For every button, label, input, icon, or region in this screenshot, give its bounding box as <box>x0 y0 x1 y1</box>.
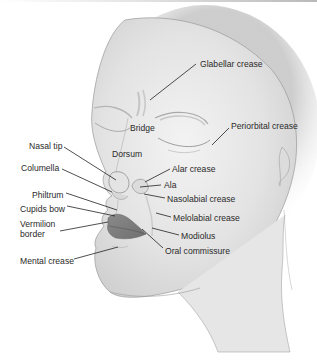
leader-ala <box>140 185 161 187</box>
label-melolabial-crease: Melolabial crease <box>173 213 240 223</box>
label-bridge: Bridge <box>130 123 155 133</box>
leader-mental-crease <box>74 247 118 259</box>
label-ala: Ala <box>164 180 176 190</box>
label-nasolabial-crease: Nasolabial crease <box>167 194 235 204</box>
label-columella: Columella <box>21 163 59 173</box>
leader-nasolabial-crease <box>144 194 165 198</box>
leader-melolabial-crease <box>156 213 171 217</box>
label-modiolus: Modiolus <box>181 231 215 241</box>
label-cupids-bow: Cupids bow <box>20 204 65 214</box>
label-glabellar-crease: Glabellar crease <box>200 59 263 69</box>
label-dorsum: Dorsum <box>112 149 142 159</box>
label-oral-commissure: Oral commissure <box>165 246 230 256</box>
leader-oral-commissure <box>142 229 163 248</box>
leader-glabellar-crease <box>150 64 196 100</box>
label-philtrum: Philtrum <box>32 190 64 200</box>
leader-modiolus <box>152 228 179 235</box>
leader-lines <box>0 0 317 361</box>
leader-vermilion-border <box>60 222 108 231</box>
leader-nasal-tip <box>64 147 116 180</box>
label-vermilion-border: Vermilion border <box>20 219 55 239</box>
label-periorbital-crease: Periorbital crease <box>231 121 298 131</box>
label-alar-crease: Alar crease <box>172 164 215 174</box>
leader-periorbital-crease <box>212 128 229 145</box>
anatomy-figure: Glabellar crease Bridge Periorbital crea… <box>0 0 317 361</box>
leader-cupids-bow <box>67 206 115 216</box>
label-nasal-tip: Nasal tip <box>29 141 62 151</box>
label-mental-crease: Mental crease <box>20 256 74 266</box>
